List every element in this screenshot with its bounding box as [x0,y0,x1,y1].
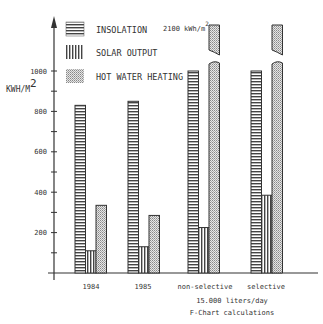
bar-group-1984 [75,105,107,273]
y-tick-label: 200 [34,229,47,237]
bar-insolation [188,71,199,273]
legend-item-insolation: INSOLATION [66,22,147,36]
bar-group-1985 [128,101,160,273]
bar-broken-lower [209,62,220,273]
horizontal-stripes-swatch-icon [66,22,84,36]
bar-broken-lower [272,62,283,273]
y-tick-label: 800 [34,108,47,116]
bar-chart: 2004006008001000 KWH/M2 INSOLATION SOLAR… [0,0,323,324]
dotted-swatch-icon [66,69,84,83]
legend-label-insolation: INSOLATION [96,25,147,35]
bar-solar-output [86,251,97,273]
category-label-non-selective: non-selective [178,283,233,291]
chart-subtitle: F-Chart calculations [190,309,274,317]
axis-arrow-icon [51,16,57,28]
category-label-1985: 1985 [135,283,152,291]
category-labels: 1984 1985 non-selective selective [83,283,285,291]
bar-solar-output [262,195,273,273]
break-annotation: 2100 kWh/m2 [163,20,209,33]
bar-insolation [251,71,262,273]
y-ticks: 2004006008001000 [30,68,57,253]
category-label-1984: 1984 [83,283,100,291]
bar-insolation [128,101,139,273]
bar-hot-water-heating [96,205,107,273]
y-tick-label: 1000 [30,68,47,76]
legend-item-hot-water-heating: HOT WATER HEATING [66,69,183,83]
legend-label-hot-water-heating: HOT WATER HEATING [96,72,183,82]
legend-item-solar-output: SOLAR OUTPUT [66,45,157,59]
bar-hot-water-heating [149,215,160,273]
bar-solar-output [139,247,150,273]
bars [75,25,283,273]
y-axis-label: KWH/M2 [6,77,37,94]
vertical-stripes-swatch-icon [66,45,84,59]
bar-group-selective [251,25,283,273]
y-tick-label: 600 [34,148,47,156]
x-axis-label: 15.000 liters/day [196,297,268,305]
y-tick-label: 400 [34,189,47,197]
bar-broken-upper [272,25,283,55]
y-axis [51,16,57,280]
bar-insolation [75,105,86,273]
bar-broken-upper [209,25,220,55]
category-label-selective: selective [247,283,285,291]
bar-solar-output [199,228,210,273]
bar-group-non-selective [188,25,220,273]
legend-label-solar-output: SOLAR OUTPUT [96,48,157,58]
